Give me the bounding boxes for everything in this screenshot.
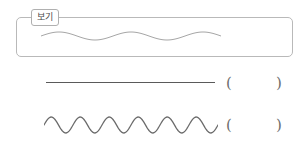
high-frequency-wave-icon [44,108,218,142]
close-paren: ) [276,116,282,134]
example-box-label: 보기 [31,9,59,26]
open-paren: ( [226,74,232,92]
high-frequency-wave-slot [44,108,218,142]
example-box-label-text: 보기 [37,13,53,22]
straight-line-figure [46,82,215,83]
answer-blank-high-frequency-wave[interactable]: ( ) [224,108,286,142]
close-paren: ) [276,74,282,92]
example-box: 보기 [16,17,293,57]
open-paren: ( [226,116,232,134]
answer-row-straight-line: ( ) [0,66,308,100]
answer-blank-straight-line[interactable]: ( ) [224,66,286,100]
example-low-frequency-wave-icon [41,25,221,47]
answer-row-high-frequency-wave: ( ) [0,108,308,142]
